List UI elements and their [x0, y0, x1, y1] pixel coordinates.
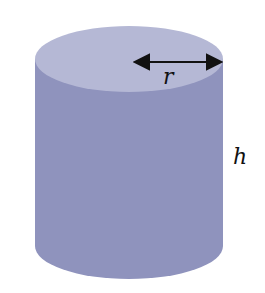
- cylinder-top: [35, 26, 223, 92]
- radius-label: r: [163, 64, 175, 89]
- height-label: h: [233, 144, 247, 169]
- cylinder-diagram: r h: [0, 0, 265, 293]
